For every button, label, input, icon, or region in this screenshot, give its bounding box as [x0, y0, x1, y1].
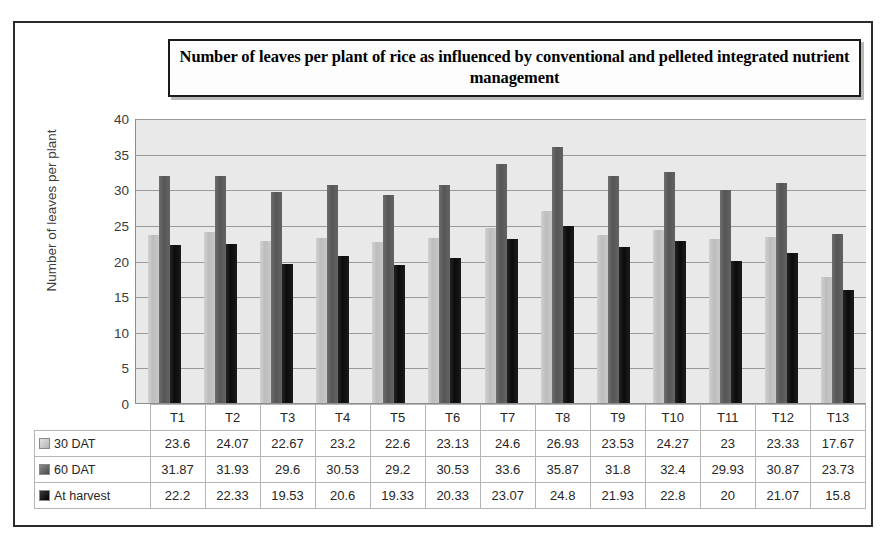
table-cell-T10-60-dat: 32.4	[645, 457, 700, 483]
table-cell-T2-at-harvest: 22.33	[205, 483, 260, 509]
bar-T11-60-dat[interactable]	[720, 190, 731, 403]
bar-T10-30-dat[interactable]	[653, 230, 664, 403]
bar-group-T5	[361, 119, 417, 403]
table-col-header-T13: T13	[810, 405, 865, 431]
table-cell-T7-60-dat: 33.6	[480, 457, 535, 483]
table-col-header-T2: T2	[205, 405, 260, 431]
bar-T13-60-dat[interactable]	[832, 234, 843, 403]
series-name: At harvest	[54, 489, 110, 503]
table-cell-T4-at-harvest: 20.6	[315, 483, 370, 509]
bar-T2-at-harvest[interactable]	[226, 244, 237, 403]
chart-title: Number of leaves per plant of rice as in…	[178, 47, 851, 88]
legend-swatch-icon	[39, 490, 50, 501]
table-cell-T9-60-dat: 31.8	[590, 457, 645, 483]
y-axis-tick-15: 15	[91, 290, 129, 305]
bar-T11-at-harvest[interactable]	[731, 261, 742, 404]
bar-T12-60-dat[interactable]	[776, 183, 787, 403]
table-cell-T4-60-dat: 30.53	[315, 457, 370, 483]
bar-T2-60-dat[interactable]	[215, 176, 226, 404]
table-cell-T10-30-dat: 24.27	[645, 431, 700, 457]
bar-group-T4	[304, 119, 360, 403]
y-axis-tick-30: 30	[91, 183, 129, 198]
bar-T12-30-dat[interactable]	[765, 237, 776, 403]
bar-T9-at-harvest[interactable]	[619, 247, 630, 403]
y-axis-tick-labels: 4035302520151050	[91, 119, 129, 404]
table-cell-T12-30-dat: 23.33	[755, 431, 810, 457]
table-cell-T6-60-dat: 30.53	[425, 457, 480, 483]
table-cell-T7-30-dat: 24.6	[480, 431, 535, 457]
bar-group-T1	[136, 119, 192, 403]
table-col-header-T6: T6	[425, 405, 480, 431]
table-cell-T8-30-dat: 26.93	[535, 431, 590, 457]
bar-T4-60-dat[interactable]	[327, 185, 338, 403]
plot-wrapper: 4035302520151050	[135, 119, 866, 404]
bar-T9-60-dat[interactable]	[608, 176, 619, 403]
y-axis-title: Number of leaves per plant	[44, 91, 59, 331]
bar-T5-at-harvest[interactable]	[394, 265, 405, 403]
bar-group-T9	[585, 119, 641, 403]
bar-T7-60-dat[interactable]	[496, 164, 507, 403]
y-axis-tick-35: 35	[91, 147, 129, 162]
table-col-header-T4: T4	[315, 405, 370, 431]
bar-group-T12	[754, 119, 810, 403]
bar-T3-at-harvest[interactable]	[282, 264, 293, 403]
bar-group-T10	[641, 119, 697, 403]
legend-row-at-harvest: At harvest	[35, 483, 151, 509]
table-header-row: T1T2T3T4T5T6T7T8T9T10T11T12T13	[35, 405, 866, 431]
bar-T4-30-dat[interactable]	[316, 238, 327, 403]
bar-T7-at-harvest[interactable]	[507, 239, 518, 403]
table-cell-T13-30-dat: 17.67	[810, 431, 865, 457]
table-cell-T9-30-dat: 23.53	[590, 431, 645, 457]
bar-T8-60-dat[interactable]	[552, 147, 563, 403]
table-body: 30 DAT23.624.0722.6723.222.623.1324.626.…	[35, 431, 866, 509]
table-cell-T12-at-harvest: 21.07	[755, 483, 810, 509]
bar-group-T6	[417, 119, 473, 403]
table-col-header-T3: T3	[260, 405, 315, 431]
table-cell-T1-30-dat: 23.6	[150, 431, 205, 457]
table-cell-T5-30-dat: 22.6	[370, 431, 425, 457]
bar-T12-at-harvest[interactable]	[787, 253, 798, 403]
bar-T2-30-dat[interactable]	[204, 232, 215, 403]
table-row: At harvest22.222.3319.5320.619.3320.3323…	[35, 483, 866, 509]
bar-T4-at-harvest[interactable]	[338, 256, 349, 403]
bar-group-T11	[698, 119, 754, 403]
series-name: 60 DAT	[54, 463, 95, 477]
table-corner-cell	[35, 405, 151, 431]
bar-T6-at-harvest[interactable]	[450, 258, 461, 403]
bar-T6-60-dat[interactable]	[439, 185, 450, 403]
table-cell-T13-at-harvest: 15.8	[810, 483, 865, 509]
legend-swatch-icon	[39, 438, 50, 449]
figure-frame: Number of leaves per plant of rice as in…	[13, 21, 873, 527]
legend-row-60-dat: 60 DAT	[35, 457, 151, 483]
bar-T9-30-dat[interactable]	[597, 235, 608, 403]
legend-swatch-icon	[39, 464, 50, 475]
bar-T1-60-dat[interactable]	[159, 176, 170, 403]
table-cell-T2-60-dat: 31.93	[205, 457, 260, 483]
y-axis-tick-25: 25	[91, 218, 129, 233]
bar-group-T7	[473, 119, 529, 403]
bar-T13-30-dat[interactable]	[821, 277, 832, 403]
bar-T7-30-dat[interactable]	[485, 228, 496, 403]
table-cell-T12-60-dat: 30.87	[755, 457, 810, 483]
bar-T10-60-dat[interactable]	[664, 172, 675, 403]
bar-T13-at-harvest[interactable]	[843, 290, 854, 403]
bar-T10-at-harvest[interactable]	[675, 241, 686, 403]
bar-T8-30-dat[interactable]	[541, 211, 552, 403]
bar-T1-30-dat[interactable]	[148, 235, 159, 403]
bar-T3-60-dat[interactable]	[271, 192, 282, 403]
y-axis-tick-40: 40	[91, 112, 129, 127]
table-col-header-T8: T8	[535, 405, 590, 431]
table-cell-T10-at-harvest: 22.8	[645, 483, 700, 509]
y-axis-tick-5: 5	[91, 361, 129, 376]
bar-T5-30-dat[interactable]	[372, 242, 383, 403]
bar-T6-30-dat[interactable]	[428, 238, 439, 403]
bar-T11-30-dat[interactable]	[709, 239, 720, 403]
bars-layer	[136, 119, 866, 403]
bar-group-T2	[192, 119, 248, 403]
bar-T1-at-harvest[interactable]	[170, 245, 181, 403]
bar-T8-at-harvest[interactable]	[563, 226, 574, 403]
bar-group-T8	[529, 119, 585, 403]
table-col-header-T1: T1	[150, 405, 205, 431]
bar-T5-60-dat[interactable]	[383, 195, 394, 403]
bar-T3-30-dat[interactable]	[260, 241, 271, 403]
